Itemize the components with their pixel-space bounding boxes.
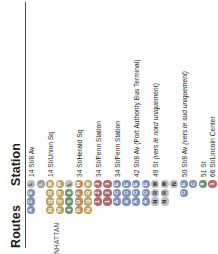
table-row[interactable]: 166 St/Lincoln Center <box>208 2 218 241</box>
route-bullet-c[interactable]: C <box>142 189 150 197</box>
route-bullet-4[interactable]: 4 <box>65 206 73 214</box>
route-bullet-1[interactable]: 1 <box>94 197 102 205</box>
route-bullet-n[interactable]: N <box>170 180 178 188</box>
route-bullet-group: L <box>37 179 45 241</box>
route-bullet-5[interactable]: 5 <box>65 197 73 205</box>
route-bullet-c[interactable]: C <box>132 189 140 197</box>
route-bullet-group: 1 <box>208 179 216 241</box>
route-bullet-a[interactable]: A <box>113 197 121 205</box>
route-bullet-group: N <box>170 179 178 241</box>
station-name: 42 St/8 Av (Port Authority Bus Terminal) <box>132 59 142 179</box>
route-bullet-c[interactable]: C <box>180 189 188 197</box>
route-bullet-e[interactable]: E <box>122 180 130 188</box>
route-bullet-r[interactable]: R <box>161 189 169 197</box>
routes-station-table: Routes Station MANHATTAN ACEL14 St/8 AvL… <box>0 0 218 254</box>
table-row[interactable]: ACE <box>122 2 132 241</box>
station-name: 51 St <box>199 161 209 179</box>
route-bullet-l[interactable]: L <box>27 180 35 188</box>
table-row[interactable]: 651 St <box>199 2 209 241</box>
table-row[interactable]: 12334 St/Penn Station <box>94 2 104 241</box>
station-name: 14 St/Union Sq <box>46 132 56 179</box>
table-row[interactable]: 456L <box>65 2 75 241</box>
route-bullet-q[interactable]: Q <box>46 197 54 205</box>
route-bullet-3[interactable]: 3 <box>103 180 111 188</box>
route-bullet-w[interactable]: W <box>161 180 169 188</box>
route-bullet-1[interactable]: 1 <box>103 197 111 205</box>
route-bullet-f[interactable]: F <box>75 189 83 197</box>
route-bullet-2[interactable]: 2 <box>94 189 102 197</box>
route-bullet-2[interactable]: 2 <box>103 189 111 197</box>
table-row[interactable]: ACE42 St/8 Av (Port Authority Bus Termin… <box>132 2 142 241</box>
route-bullet-e[interactable]: E <box>142 180 150 188</box>
route-bullet-group: C <box>189 179 197 241</box>
route-bullet-group: ACE <box>142 179 150 241</box>
route-bullet-b[interactable]: B <box>75 206 83 214</box>
table-row[interactable]: ACEL14 St/8 Av <box>27 2 37 241</box>
borough-section-manhattan: MANHATTAN ACEL14 St/8 AvLNQRW14 St/Union… <box>27 2 218 250</box>
route-bullet-c[interactable]: C <box>113 189 121 197</box>
route-bullet-3[interactable]: 3 <box>94 180 102 188</box>
route-bullet-m[interactable]: M <box>75 180 83 188</box>
route-bullet-l[interactable]: L <box>65 180 73 188</box>
route-bullet-n[interactable]: N <box>84 206 92 214</box>
route-bullet-a[interactable]: A <box>142 197 150 205</box>
table-row[interactable]: BDFM34 St/Herald Sq <box>75 2 85 241</box>
table-row[interactable]: NQRW <box>56 2 66 241</box>
route-bullet-e[interactable]: E <box>180 180 188 188</box>
route-bullet-group: 123 <box>103 179 111 241</box>
table-row[interactable]: NQRW14 St/Union Sq <box>46 2 56 241</box>
route-bullet-group: 456L <box>65 179 73 241</box>
route-bullet-r[interactable]: R <box>84 189 92 197</box>
route-bullet-q[interactable]: Q <box>56 197 64 205</box>
table-row[interactable]: C <box>189 2 199 241</box>
route-bullet-r[interactable]: R <box>56 189 64 197</box>
station-name: 50 St/8 Av (vers le sud uniquement) <box>180 71 190 179</box>
table-row[interactable]: N <box>170 2 180 241</box>
table-row[interactable]: 123 <box>103 2 113 241</box>
route-bullet-w[interactable]: W <box>84 180 92 188</box>
table-row[interactable]: NRW <box>161 2 171 241</box>
route-bullet-w[interactable]: W <box>151 180 159 188</box>
station-name: 34 St/Penn Station <box>94 121 104 179</box>
station-column-header: Station <box>9 86 23 186</box>
route-bullet-a[interactable]: A <box>122 197 130 205</box>
table-header-row: Routes Station <box>6 2 23 250</box>
route-bullet-group: CE <box>180 179 188 241</box>
route-bullet-l[interactable]: L <box>37 180 45 188</box>
route-bullet-q[interactable]: Q <box>84 197 92 205</box>
route-bullet-c[interactable]: C <box>27 197 35 205</box>
table-row[interactable]: L <box>37 2 47 241</box>
route-bullet-1[interactable]: 1 <box>208 180 216 188</box>
route-bullet-n[interactable]: N <box>151 197 159 205</box>
station-name: 66 St/Lincoln Center <box>208 116 218 179</box>
route-bullet-w[interactable]: W <box>56 180 64 188</box>
route-bullet-c[interactable]: C <box>122 189 130 197</box>
borough-label: MANHATTAN <box>53 208 60 254</box>
station-name: 34 St/Herald Sq <box>75 130 85 179</box>
table-row[interactable]: NRW49 St (vers le nord uniquement) <box>151 2 161 241</box>
route-bullet-c[interactable]: C <box>189 180 197 188</box>
route-bullet-e[interactable]: E <box>132 180 140 188</box>
route-bullet-r[interactable]: R <box>46 189 54 197</box>
route-bullet-group: ACE <box>122 179 130 241</box>
route-bullet-group: 6 <box>199 179 207 241</box>
route-bullet-a[interactable]: A <box>27 206 35 214</box>
route-bullet-n[interactable]: N <box>161 197 169 205</box>
route-bullet-d[interactable]: D <box>75 197 83 205</box>
route-bullet-6[interactable]: 6 <box>199 180 207 188</box>
station-name: 14 St/8 Av <box>27 147 37 179</box>
route-bullet-e[interactable]: E <box>113 180 121 188</box>
table-row[interactable]: ACE34 St/Penn Station <box>113 2 123 241</box>
table-row[interactable]: CE50 St/8 Av (vers le sud uniquement) <box>180 2 190 241</box>
route-bullet-w[interactable]: W <box>46 180 54 188</box>
route-bullet-6[interactable]: 6 <box>65 189 73 197</box>
route-bullet-a[interactable]: A <box>132 197 140 205</box>
route-bullet-group: ACE <box>113 179 121 241</box>
route-bullet-r[interactable]: R <box>151 189 159 197</box>
station-rows: ACEL14 St/8 AvLNQRW14 St/Union SqNQRW456… <box>27 2 218 241</box>
rotated-page-wrapper: Routes Station MANHATTAN ACEL14 St/8 AvL… <box>0 0 218 254</box>
route-bullet-e[interactable]: E <box>27 189 35 197</box>
table-row[interactable]: NQRW <box>84 2 94 241</box>
table-row[interactable]: ACE <box>142 2 152 241</box>
route-bullet-group: ACEL <box>27 179 35 241</box>
